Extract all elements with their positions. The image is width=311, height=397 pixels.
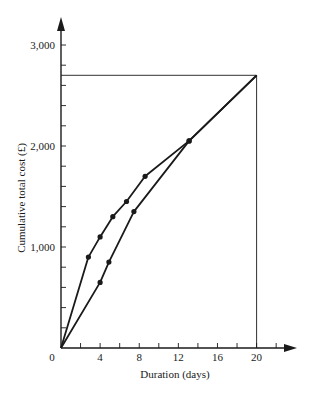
series-line	[61, 75, 257, 348]
data-series	[61, 75, 257, 348]
axes	[57, 17, 297, 352]
data-point-marker	[110, 214, 115, 219]
reference-lines	[61, 75, 257, 348]
cumulative-cost-chart: 0481216201,0002,0003,000 Duration (days)…	[0, 0, 311, 397]
axis-ticks: 0481216201,0002,0003,000	[30, 39, 276, 363]
x-axis-arrow-icon	[284, 344, 297, 352]
data-point-marker	[187, 138, 192, 143]
x-tick-label: 0	[49, 351, 55, 363]
data-point-marker	[98, 234, 103, 239]
x-axis-label: Duration (days)	[140, 368, 210, 381]
x-tick-label: 4	[97, 351, 103, 363]
series-line	[61, 75, 257, 348]
series-upper-curve	[61, 75, 257, 348]
x-tick-label: 12	[173, 351, 184, 363]
y-tick-label: 1,000	[30, 241, 55, 253]
data-point-marker	[86, 255, 91, 260]
x-tick-label: 20	[251, 351, 263, 363]
series-lower-curve	[61, 75, 257, 348]
y-tick-label: 3,000	[30, 39, 55, 51]
data-point-marker	[124, 199, 129, 204]
x-tick-label: 8	[136, 351, 142, 363]
y-tick-label: 2,000	[30, 140, 55, 152]
y-axis-label: Cumulative total cost (£)	[15, 143, 28, 253]
y-axis-arrow-icon	[57, 17, 65, 31]
x-tick-label: 16	[212, 351, 224, 363]
data-point-marker	[98, 280, 103, 285]
data-point-marker	[143, 174, 148, 179]
data-point-marker	[106, 260, 111, 265]
data-point-marker	[131, 209, 136, 214]
